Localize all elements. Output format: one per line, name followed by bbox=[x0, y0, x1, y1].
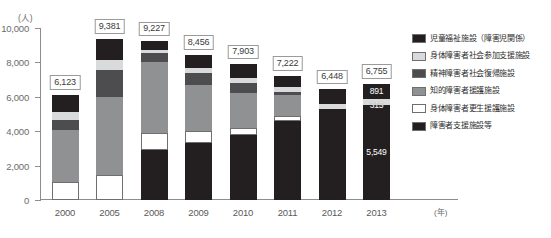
x-axis-tick-label: 2010 bbox=[233, 207, 253, 218]
bar-segment[interactable] bbox=[141, 62, 168, 133]
legend-item[interactable]: 知的障害者援護施設 bbox=[412, 83, 551, 101]
x-axis-tick-label: 2012 bbox=[322, 207, 342, 218]
bar-total-label: 6,755 bbox=[361, 64, 392, 79]
legend-item[interactable]: 身体障害者更生援護施設 bbox=[412, 100, 551, 118]
bar-segment[interactable] bbox=[230, 83, 257, 93]
bar-segment[interactable] bbox=[96, 60, 123, 70]
bar-segment[interactable] bbox=[274, 121, 301, 200]
bar-segment[interactable] bbox=[96, 39, 123, 60]
y-axis-tick-label: 2,000 bbox=[6, 160, 29, 171]
bar-group: 9,3812005 bbox=[96, 28, 123, 200]
y-axis-tick: 8,000 bbox=[35, 62, 41, 63]
bar-segment[interactable] bbox=[274, 76, 301, 87]
x-axis-tick-label: 2000 bbox=[55, 207, 75, 218]
x-axis-unit-label: (年) bbox=[434, 206, 447, 217]
bar-group: 9,2272008 bbox=[141, 28, 168, 200]
stacked-bar[interactable]: 7,903 bbox=[230, 28, 257, 200]
bar-segment[interactable] bbox=[52, 130, 79, 182]
legend-item[interactable]: 児童福祉施設（障害児関係） bbox=[412, 30, 551, 48]
bar-segment[interactable] bbox=[185, 85, 212, 131]
bar-segment[interactable] bbox=[52, 182, 79, 200]
bar-segment-value-label: 315 bbox=[363, 101, 390, 110]
legend-swatch-icon bbox=[412, 87, 426, 96]
y-axis-unit-label: (人) bbox=[18, 11, 33, 23]
bar-segment[interactable] bbox=[52, 120, 79, 130]
bar-group: 7,9032010 bbox=[230, 28, 257, 200]
bar-total-label: 9,381 bbox=[94, 19, 125, 34]
legend-item[interactable]: 身体障害者社会参加支援施設 bbox=[412, 48, 551, 66]
bar-total-label: 9,227 bbox=[139, 22, 170, 37]
x-axis-tick-label: 2013 bbox=[366, 207, 386, 218]
legend-item[interactable]: 障害者支援施設等 bbox=[412, 118, 551, 136]
bar-total-label: 6,123 bbox=[50, 75, 81, 90]
bar-group: 7,2222011 bbox=[274, 28, 301, 200]
bar-segment[interactable] bbox=[274, 95, 301, 116]
legend-swatch-icon bbox=[412, 34, 426, 43]
bar-group: 6,4482012 bbox=[319, 28, 346, 200]
bar-segment[interactable] bbox=[319, 109, 346, 200]
legend-item-label: 知的障害者援護施設 bbox=[430, 87, 499, 95]
chart-legend: 児童福祉施設（障害児関係）身体障害者社会参加支援施設精神障害者社会復帰施設知的障… bbox=[412, 30, 551, 135]
y-axis-tick-label: 8,000 bbox=[6, 57, 29, 68]
bar-segment[interactable] bbox=[141, 53, 168, 62]
bar-segment[interactable] bbox=[52, 112, 79, 120]
bar-segment[interactable] bbox=[185, 143, 212, 200]
bar-total-label: 8,456 bbox=[183, 35, 214, 50]
bar-segment[interactable] bbox=[230, 64, 257, 77]
bar-segment[interactable] bbox=[141, 41, 168, 50]
bar-segment[interactable]: 315 bbox=[363, 99, 390, 104]
bar-segment[interactable] bbox=[274, 92, 301, 95]
bar-segment[interactable] bbox=[319, 104, 346, 109]
chart-figure: (人) 10,0008,0006,0004,0002,0000 6,123200… bbox=[0, 0, 551, 238]
y-axis-tick-label: 4,000 bbox=[6, 126, 29, 137]
stacked-bar[interactable]: 8,456 bbox=[185, 28, 212, 200]
stacked-bar[interactable]: 9,227 bbox=[141, 28, 168, 200]
bar-segment[interactable] bbox=[141, 150, 168, 200]
legend-swatch-icon bbox=[412, 69, 426, 78]
stacked-bar[interactable]: 9,381 bbox=[96, 28, 123, 200]
bar-segment[interactable] bbox=[52, 95, 79, 113]
legend-swatch-icon bbox=[412, 122, 426, 131]
bar-group: 5,5493158916,7552013 bbox=[363, 28, 390, 200]
stacked-bar[interactable]: 7,222 bbox=[274, 28, 301, 200]
y-axis-tick-label: 6,000 bbox=[6, 91, 29, 102]
stacked-bar[interactable]: 6,123 bbox=[52, 28, 79, 200]
legend-item-label: 障害者支援施設等 bbox=[430, 122, 492, 130]
bar-segment[interactable] bbox=[185, 73, 212, 85]
legend-item[interactable]: 精神障害者社会復帰施設 bbox=[412, 65, 551, 83]
bar-segment[interactable] bbox=[185, 131, 212, 143]
bar-segment[interactable] bbox=[319, 89, 346, 104]
bar-total-label: 7,903 bbox=[228, 45, 259, 60]
y-axis-tick: 10,000 bbox=[35, 28, 41, 29]
bar-segment[interactable] bbox=[185, 55, 212, 69]
bar-segment[interactable] bbox=[96, 175, 123, 200]
y-axis-tick-label: 0 bbox=[24, 195, 29, 206]
bar-segment[interactable] bbox=[230, 128, 257, 135]
stacked-bar[interactable]: 5,5493158916,755 bbox=[363, 28, 390, 200]
bar-segment[interactable]: 891 bbox=[363, 84, 390, 99]
bar-segment[interactable] bbox=[230, 93, 257, 128]
bar-segment[interactable] bbox=[141, 50, 168, 53]
bar-total-label: 7,222 bbox=[272, 56, 303, 71]
bar-segment[interactable] bbox=[274, 87, 301, 92]
x-axis-tick-label: 2008 bbox=[144, 207, 164, 218]
bar-segment[interactable] bbox=[230, 78, 257, 83]
bar-segment-value-label: 891 bbox=[363, 87, 390, 96]
bar-group: 6,1232000 bbox=[52, 28, 79, 200]
legend-item-label: 身体障害者更生援護施設 bbox=[430, 105, 515, 113]
y-axis-tick-label: 10,000 bbox=[1, 23, 29, 34]
y-axis-tick: 6,000 bbox=[35, 97, 41, 98]
plot-area: 10,0008,0006,0004,0002,0000 6,12320009,3… bbox=[40, 28, 385, 200]
bar-segment[interactable] bbox=[274, 116, 301, 121]
legend-item-label: 児童福祉施設（障害児関係） bbox=[430, 35, 530, 43]
bar-segment[interactable] bbox=[141, 133, 168, 150]
bar-segment[interactable]: 5,549 bbox=[363, 105, 390, 200]
bar-segment[interactable] bbox=[96, 97, 123, 175]
bar-segment[interactable] bbox=[185, 68, 212, 73]
bar-segment[interactable] bbox=[96, 70, 123, 97]
y-axis-line bbox=[40, 28, 41, 200]
stacked-bar[interactable]: 6,448 bbox=[319, 28, 346, 200]
bar-segment[interactable] bbox=[230, 135, 257, 200]
bar-segment-value-label: 5,549 bbox=[363, 148, 390, 157]
legend-item-label: 精神障害者社会復帰施設 bbox=[430, 70, 515, 78]
